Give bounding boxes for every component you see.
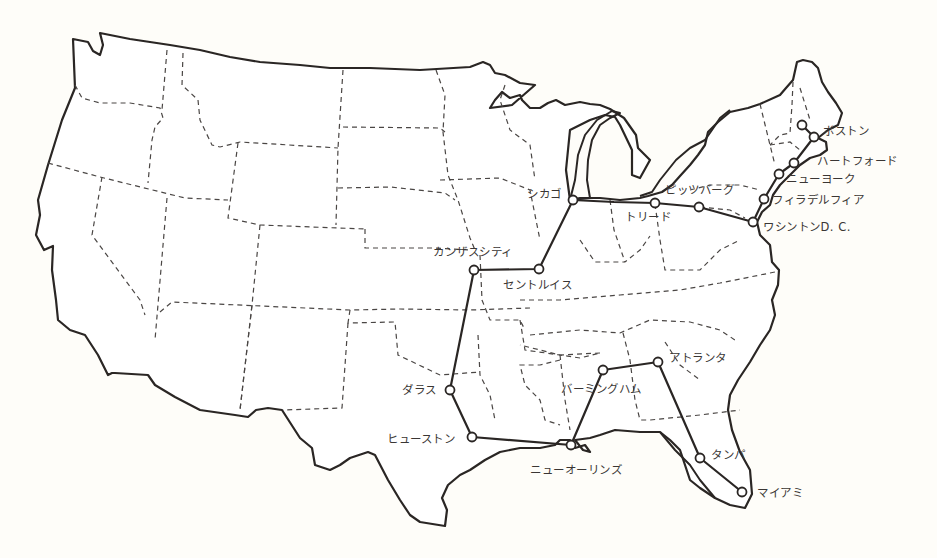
city-node-miami bbox=[738, 488, 747, 497]
city-node-new-orleans bbox=[567, 441, 576, 450]
label-kansas-city: カンザスシティ bbox=[433, 243, 513, 259]
label-new-york: ニューヨーク bbox=[786, 170, 855, 186]
city-node-houston bbox=[468, 433, 477, 442]
city-node-boston-north bbox=[798, 121, 807, 130]
city-node-kansas-city bbox=[470, 266, 479, 275]
city-node-washington-dc bbox=[749, 218, 758, 227]
label-chicago: シカゴ bbox=[527, 185, 562, 201]
city-node-hartford bbox=[790, 159, 799, 168]
label-birmingham: バーミングハム bbox=[561, 380, 642, 396]
label-washington-dc: ワシントンD. C. bbox=[763, 218, 851, 234]
label-houston: ヒューストン bbox=[387, 430, 455, 446]
city-node-new-york bbox=[775, 170, 784, 179]
city-node-pittsburgh-east bbox=[695, 203, 704, 212]
city-node-pittsburgh bbox=[651, 199, 660, 208]
city-node-dallas bbox=[446, 386, 455, 395]
city-node-tampa bbox=[696, 454, 705, 463]
label-atlanta: アトランタ bbox=[669, 349, 727, 365]
label-pittsburgh: ピッツバーグ bbox=[665, 181, 734, 197]
city-node-philadelphia bbox=[760, 195, 769, 204]
us-map bbox=[0, 0, 937, 558]
label-boston: ボストン bbox=[823, 122, 869, 138]
city-node-boston bbox=[810, 133, 819, 142]
label-dallas: ダラス bbox=[402, 381, 437, 397]
city-node-chicago bbox=[569, 196, 578, 205]
label-hartford: ハートフォード bbox=[817, 152, 898, 168]
city-node-atlanta bbox=[654, 358, 663, 367]
label-miami: マイアミ bbox=[757, 484, 803, 500]
label-toledo: トリード bbox=[625, 208, 671, 224]
label-tampa: タンパ bbox=[711, 446, 746, 462]
city-node-birmingham bbox=[599, 366, 608, 375]
label-new-orleans: ニューオーリンズ bbox=[530, 461, 622, 477]
label-st-louis: セントルイス bbox=[503, 276, 572, 292]
label-philadelphia: フィラデルフィア bbox=[772, 191, 864, 207]
city-node-st-louis bbox=[535, 265, 544, 274]
